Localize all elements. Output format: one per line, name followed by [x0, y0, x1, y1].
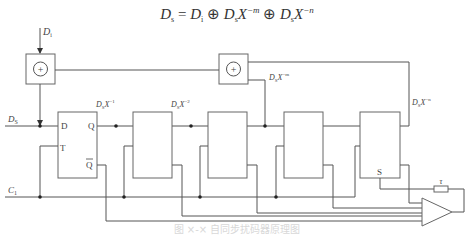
clock-to-ff1: [40, 146, 58, 197]
label-tap-2: DSX−2: [170, 99, 190, 110]
label-tap-n: DSX−n: [411, 97, 431, 108]
figure-caption: 图 ×-× 自同步扰码器原理图: [174, 223, 301, 235]
flip-flop-5: S: [360, 112, 400, 178]
xor-plus-icon: +: [231, 64, 237, 75]
label-tap-1: DSX−1: [95, 99, 115, 110]
label-tau: τ: [440, 177, 444, 186]
comparator-feedback: [448, 189, 464, 212]
junction-dot: [38, 195, 42, 199]
wire-tap-m-feedback: [248, 80, 265, 126]
label-c1: C1: [8, 185, 17, 196]
pin-q-label: Q: [88, 121, 95, 131]
junction-dot: [263, 124, 267, 128]
pin-s-label: S: [377, 167, 382, 177]
label-tap-m: DSX−m: [268, 72, 289, 83]
pin-qbar-label: Q: [86, 160, 93, 170]
label-di: Di: [42, 26, 52, 38]
junction-dot: [114, 124, 118, 128]
junction-dot: [122, 195, 126, 199]
junction-dot: [274, 195, 278, 199]
pin-t-label: T: [60, 143, 66, 153]
tau-delay-element: [434, 186, 448, 192]
xor-gate-1: +: [26, 54, 55, 84]
xor-plus-icon: +: [38, 64, 44, 75]
flip-flop-1: D Q T Q: [58, 112, 97, 178]
clock-to-ff5: [355, 146, 360, 197]
flip-flop-3: [208, 112, 247, 178]
qbar5-to-comparator: [400, 165, 422, 203]
xor-gate-2: +: [219, 54, 248, 84]
formula: Ds = Di ⊕ DsX−m ⊕ DsX−n: [159, 5, 314, 24]
comparator: [422, 198, 452, 226]
junction-dot: [198, 195, 202, 199]
clock-to-ff4: [276, 146, 284, 197]
scrambler-diagram: Ds = Di ⊕ DsX−m ⊕ DsX−n Di + + DSX−m DSX…: [0, 0, 474, 236]
pin-d-label: D: [61, 121, 68, 131]
clock-to-ff3: [200, 146, 208, 197]
flip-flop-2: [133, 112, 172, 178]
flip-flop-4: [284, 112, 323, 178]
junction-dot: [189, 124, 193, 128]
junction-dot: [38, 124, 42, 128]
s-line: [380, 178, 434, 189]
clock-to-ff2: [124, 146, 133, 197]
label-ds: DS: [7, 114, 18, 125]
